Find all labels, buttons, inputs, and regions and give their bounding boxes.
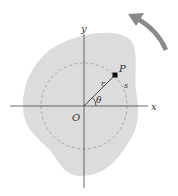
arc-length-label: s <box>124 81 128 90</box>
rotating-body-diagram: y x O P r s θ <box>0 0 178 196</box>
origin-label: O <box>72 112 80 123</box>
point-label: P <box>118 63 126 74</box>
angle-label: θ <box>96 95 102 105</box>
rotation-arrow-icon <box>138 19 166 50</box>
rigid-body-shape <box>23 33 138 176</box>
y-axis-label: y <box>80 23 87 34</box>
x-axis-label: x <box>151 101 157 112</box>
point-p-marker <box>113 73 118 78</box>
diagram-canvas: y x O P r s θ <box>0 0 178 196</box>
